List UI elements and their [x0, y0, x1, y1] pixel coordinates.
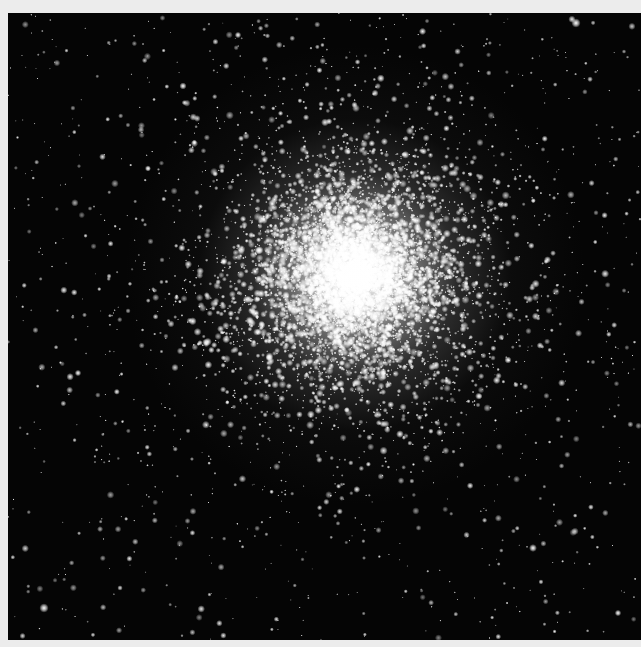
globular-cluster-photo [8, 13, 641, 640]
star-field [8, 13, 641, 640]
